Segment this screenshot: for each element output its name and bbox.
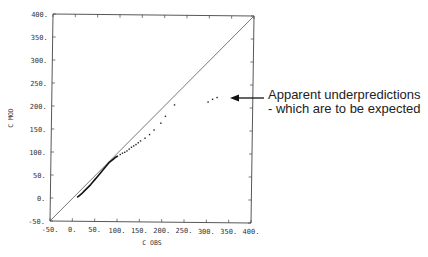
- data-point: [165, 116, 166, 117]
- data-point: [122, 152, 123, 153]
- data-point: [133, 145, 134, 146]
- y-tick-label: 150.: [29, 126, 46, 134]
- scatter-chart: -50.0.50.100.150.200.250.300.350.400. -5…: [0, 0, 428, 257]
- annotation-line-1: Apparent underpredictions: [268, 87, 421, 102]
- one-to-one-line: [50, 16, 254, 221]
- data-point: [129, 148, 130, 149]
- data-point: [216, 97, 217, 98]
- x-tick-label: 50.: [88, 226, 101, 234]
- data-point: [131, 147, 132, 148]
- x-tick-label: -50.: [42, 226, 59, 234]
- arrow-left-icon: [230, 95, 239, 102]
- y-tick-label: 350.: [31, 34, 48, 42]
- annotation-line-2: - which are to be expected: [268, 101, 420, 116]
- x-tick-label: 150.: [131, 227, 148, 235]
- x-tick-label: 100.: [109, 227, 126, 235]
- y-tick-label: 0.: [37, 195, 45, 203]
- x-tick-labels: -50.0.50.100.150.200.250.300.350.400.: [42, 226, 260, 236]
- data-points: [77, 97, 218, 198]
- annotation: Apparent underpredictions - which are to…: [230, 87, 421, 116]
- data-point: [207, 101, 208, 102]
- y-tick-label: 200.: [30, 103, 47, 111]
- data-point: [135, 144, 136, 145]
- data-point: [124, 152, 125, 153]
- y-tick-label: 400.: [31, 11, 48, 19]
- y-tick-label: 300.: [30, 57, 47, 65]
- y-tick-label: 50.: [33, 172, 46, 180]
- x-tick-label: 0.: [68, 226, 76, 234]
- x-tick-label: 400.: [243, 228, 260, 236]
- data-point: [126, 150, 127, 151]
- data-point: [140, 140, 141, 141]
- data-point: [120, 154, 121, 155]
- data-point: [160, 122, 161, 123]
- data-point: [212, 99, 213, 100]
- data-point: [153, 129, 154, 130]
- x-tick-label: 300.: [198, 228, 215, 236]
- y-tick-labels: -50.0.50.100.150.200.250.300.350.400.: [28, 11, 48, 226]
- x-tick-label: 350.: [220, 228, 237, 236]
- data-point: [149, 134, 150, 135]
- data-point: [138, 142, 139, 143]
- y-tick-label: 100.: [29, 149, 46, 157]
- x-axis-title: C OBS: [142, 239, 162, 247]
- x-tick-label: 250.: [176, 227, 193, 235]
- y-tick-label: -50.: [28, 218, 45, 226]
- x-tick-label: 200.: [153, 227, 170, 235]
- data-point: [174, 104, 175, 105]
- data-point: [144, 138, 145, 139]
- y-axis-title: C MOD: [7, 108, 15, 128]
- y-tick-label: 250.: [30, 80, 47, 88]
